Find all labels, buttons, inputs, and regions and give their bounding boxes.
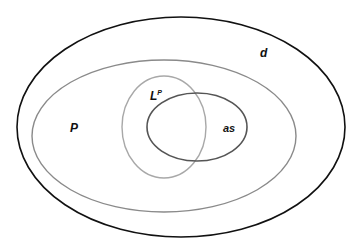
nested-set-diagram: d P LP as: [0, 0, 359, 248]
label-lp: LP: [150, 89, 162, 103]
label-p: P: [70, 121, 79, 135]
label-d: d: [260, 46, 268, 60]
label-lp-base: L: [150, 89, 157, 103]
label-as: as: [223, 122, 235, 134]
set-lp-ellipse: [122, 76, 206, 178]
set-p-ellipse: [32, 60, 296, 212]
label-lp-superscript: P: [157, 89, 162, 96]
